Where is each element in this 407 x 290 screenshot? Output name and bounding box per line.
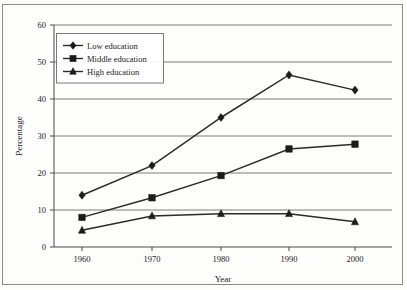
series-middle-education [79,141,358,221]
series-markers-low-education [79,71,358,199]
diamond-marker-icon [286,71,292,79]
line-chart: 60 50 40 30 20 10 0 1960 1970 1980 1990 … [0,0,407,290]
diamond-marker-icon [79,191,85,199]
diamond-marker-icon [352,86,358,94]
square-marker-icon [218,172,224,178]
y-axis-ticks [50,25,54,247]
y-tick-label-10: 10 [38,205,47,215]
y-tick-label-60: 60 [38,20,47,30]
x-axis-ticks [82,247,355,251]
x-tick-label-1990: 1990 [281,254,298,264]
diamond-marker-icon [218,114,224,122]
series-high-education [78,210,358,234]
series-low-education [79,71,358,199]
x-tick-label-1980: 1980 [213,254,230,264]
square-marker-icon [286,146,292,152]
y-tick-label-0: 0 [42,242,46,252]
x-axis-tick-labels: 1960 1970 1980 1990 2000 [74,254,364,264]
legend-label-high-education: High education [87,67,140,77]
y-tick-label-50: 50 [38,57,47,67]
series-markers-middle-education [79,141,358,221]
chart-legend: Low education Middle education High educ… [57,34,164,84]
y-tick-label-40: 40 [38,94,47,104]
square-marker-icon [352,141,358,147]
series-line-middle-education [82,144,355,217]
diamond-marker-icon [149,162,155,170]
x-tick-label-1960: 1960 [74,254,91,264]
legend-label-middle-education: Middle education [87,54,147,64]
chart-page: 60 50 40 30 20 10 0 1960 1970 1980 1990 … [0,0,407,290]
y-axis-tick-labels: 60 50 40 30 20 10 0 [38,20,47,252]
x-tick-label-1970: 1970 [144,254,161,264]
x-axis-title: Year [215,274,232,284]
y-tick-label-30: 30 [38,131,47,141]
x-tick-label-2000: 2000 [347,254,364,264]
square-marker-icon [149,195,155,201]
legend-label-low-education: Low education [87,41,138,51]
y-axis-title: Percentage [14,116,24,155]
y-tick-label-20: 20 [38,168,47,178]
square-marker-icon [79,214,85,220]
square-marker-icon [70,55,76,61]
